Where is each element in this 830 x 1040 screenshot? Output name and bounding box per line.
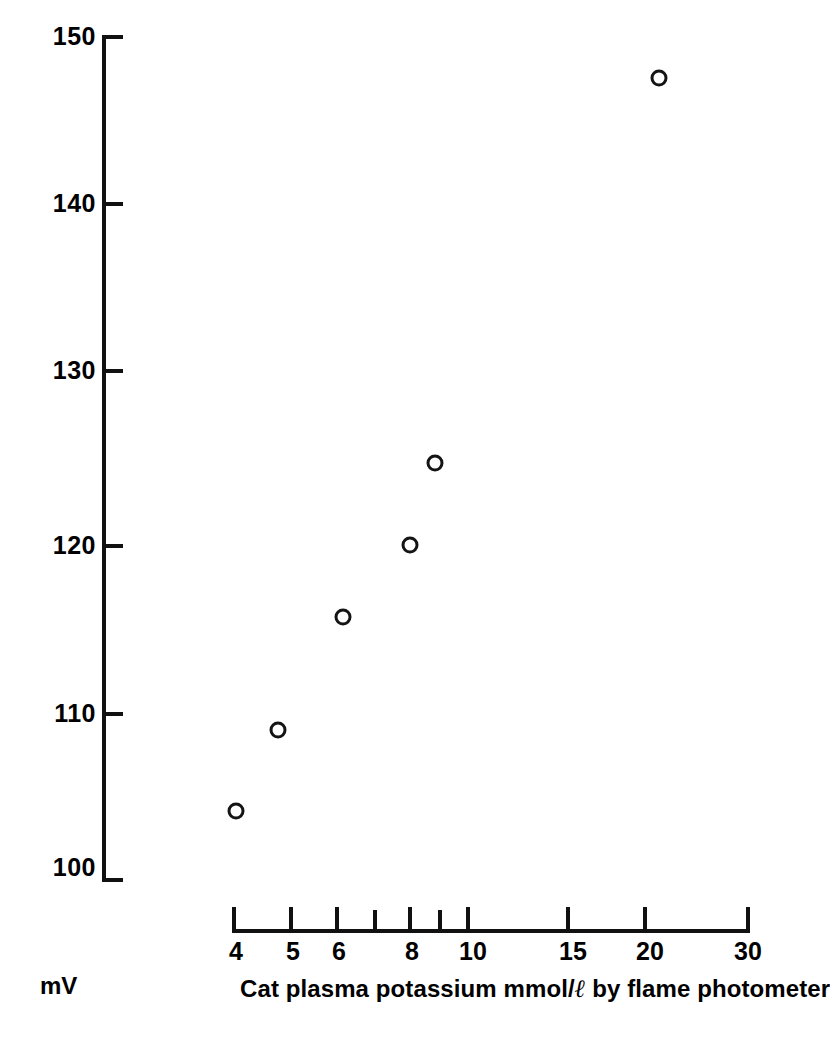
y-axis-tick-140 [102, 202, 123, 206]
x-axis-label-6: 6 [332, 939, 346, 964]
y-axis-line [102, 35, 106, 882]
x-axis-label-20: 20 [636, 939, 664, 964]
liter-symbol: ℓ [575, 975, 586, 1002]
data-point [228, 803, 245, 820]
y-axis-tick-150 [102, 35, 123, 39]
y-axis-tick-110 [102, 712, 123, 716]
x-axis-tick-7 [373, 910, 377, 933]
x-axis-label-4: 4 [229, 939, 243, 964]
data-point [270, 722, 287, 739]
y-axis-label-110: 110 [34, 701, 96, 726]
y-axis-title: mV [40, 974, 77, 998]
y-axis-label-120: 120 [34, 533, 96, 558]
x-axis-tick-4 [232, 907, 236, 933]
y-axis-tick-130 [102, 369, 123, 373]
y-axis-label-100: 100 [34, 855, 96, 880]
data-point [651, 70, 668, 87]
x-axis-label-5: 5 [286, 939, 300, 964]
x-axis-tick-10 [466, 907, 470, 933]
data-point [402, 537, 419, 554]
y-axis-label-140: 140 [34, 191, 96, 216]
x-axis-tick-6 [335, 907, 339, 933]
y-axis-tick-120 [102, 544, 123, 548]
x-axis-label-8: 8 [405, 939, 419, 964]
x-axis-tick-8 [408, 907, 412, 933]
x-axis-tick-9 [438, 910, 442, 933]
x-axis-title-part-1: Cat plasma potassium mmol/ [240, 975, 575, 1002]
x-axis-label-15: 15 [559, 939, 587, 964]
x-axis-tick-30 [746, 907, 750, 933]
x-axis-title: Cat plasma potassium mmol/ℓ by flame pho… [240, 976, 830, 1001]
x-axis-tick-5 [289, 907, 293, 933]
x-axis-tick-20 [643, 907, 647, 933]
data-point [335, 609, 352, 626]
y-axis-label-150: 150 [34, 24, 96, 49]
x-axis-label-30: 30 [734, 939, 762, 964]
x-axis-title-part-2: by flame photometer [585, 975, 830, 1002]
x-axis-line [232, 929, 750, 933]
y-axis-tick-100 [102, 878, 123, 882]
y-axis-label-130: 130 [34, 358, 96, 383]
x-axis-tick-15 [566, 907, 570, 933]
x-axis-label-10: 10 [459, 939, 487, 964]
data-point [427, 455, 444, 472]
